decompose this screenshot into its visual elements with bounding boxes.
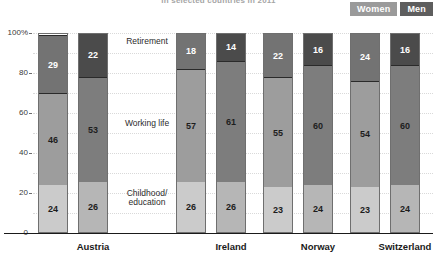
bar-austria-men[interactable]: 265322 [78, 33, 108, 233]
y-tick-label-60: 60 [0, 108, 28, 117]
segment-childhood-value: 23 [263, 187, 293, 233]
segment-childhood-value: 26 [216, 182, 246, 233]
segment-working-value: 54 [350, 81, 380, 188]
y-tick-mark [29, 153, 32, 154]
y-tick-label-100: 100% [0, 28, 28, 37]
y-tick-mark [29, 193, 32, 194]
y-tick-mark [29, 33, 32, 34]
y-tick-label-40: 40 [0, 148, 28, 157]
bar-norway-men[interactable]: 246016 [303, 33, 333, 233]
y-tick-label-20: 20 [0, 188, 28, 197]
segment-working-value: 60 [390, 65, 420, 185]
legend-item-women[interactable]: Women [350, 2, 397, 16]
legend-label-men: Men [407, 4, 426, 14]
segment-working-value: 53 [78, 77, 108, 182]
segment-working-value: 55 [263, 77, 293, 187]
bar-austria-women[interactable]: 244629 [38, 33, 68, 233]
segment-retirement-value: 29 [38, 35, 68, 93]
segment-childhood-value: 24 [390, 185, 420, 233]
segment-working-value: 61 [216, 61, 246, 182]
segment-retirement-value: 16 [390, 33, 420, 65]
legend-item-men[interactable]: Men [400, 2, 433, 16]
segment-childhood-value: 24 [38, 185, 68, 233]
plot-area: 2446292653222657182661142355222460162354… [33, 33, 433, 233]
x-axis-label-austria: Austria [48, 241, 138, 252]
segment-retirement-value: 14 [216, 33, 246, 61]
caption-working-life: Working life [111, 119, 183, 128]
segment-working-value: 46 [38, 93, 68, 185]
segment-working-value: 60 [303, 65, 333, 185]
bar-switzerland-women[interactable]: 235424 [350, 33, 380, 233]
y-tick-mark [29, 73, 32, 74]
bar-norway-women[interactable]: 235522 [263, 33, 293, 233]
chart-legend: Women Men [350, 2, 433, 16]
segment-childhood-value: 23 [350, 187, 380, 233]
segment-childhood-value: 24 [303, 185, 333, 233]
y-tick-label-80: 80 [0, 68, 28, 77]
caption-retirement: Retirement [111, 37, 183, 46]
segment-retirement-value: 22 [78, 33, 108, 77]
segment-childhood-value: 26 [78, 182, 108, 233]
segment-retirement-value: 22 [263, 33, 293, 77]
x-axis-label-ireland: Ireland [186, 241, 276, 252]
segment-retirement-value: 24 [350, 33, 380, 81]
x-axis-line [4, 233, 433, 234]
x-axis-label-switzerland: Switzerland [360, 241, 437, 252]
bar-switzerland-men[interactable]: 246016 [390, 33, 420, 233]
bar-ireland-men[interactable]: 266114 [216, 33, 246, 233]
x-axis-label-norway: Norway [273, 241, 363, 252]
y-tick-mark [29, 113, 32, 114]
legend-label-women: Women [357, 4, 390, 14]
caption-childhood-education: Childhood/ education [111, 189, 183, 207]
caption-childhood-line2: education [111, 198, 183, 207]
segment-retirement-value: 16 [303, 33, 333, 65]
